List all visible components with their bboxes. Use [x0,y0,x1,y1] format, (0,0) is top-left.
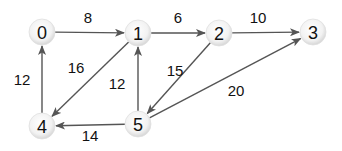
edge-layer: 8610121612152014 [14,9,301,144]
node-label: 4 [37,117,47,137]
node-label: 2 [214,24,224,44]
node-2: 2 [206,20,232,46]
node-1: 1 [125,20,151,46]
edge-weight-label: 20 [228,82,245,99]
edge-weight-label: 12 [14,71,31,88]
edge-weight-label: 8 [84,9,92,26]
node-label: 3 [308,23,318,43]
node-3: 3 [300,19,326,45]
edge-2-to-3 [232,32,299,33]
graph-diagram: 8610121612152014 012345 [0,0,342,151]
edge-weight-label: 15 [167,62,184,79]
node-4: 4 [29,113,55,139]
node-label: 5 [133,115,143,135]
edge-weight-label: 14 [82,127,99,144]
edge-weight-label: 6 [174,9,182,26]
node-label: 0 [37,23,47,43]
edge-5-to-4 [56,124,125,125]
node-5: 5 [125,111,151,137]
node-0: 0 [29,19,55,45]
node-label: 1 [133,24,143,44]
edge-weight-label: 10 [250,9,267,26]
edge-weight-label: 16 [68,59,85,76]
edge-weight-label: 12 [109,75,126,92]
edge-0-to-1 [55,32,124,33]
